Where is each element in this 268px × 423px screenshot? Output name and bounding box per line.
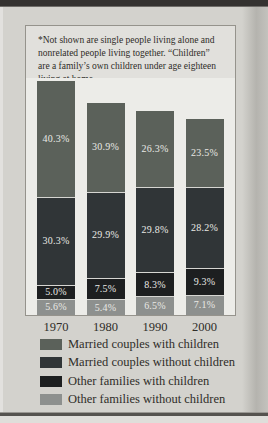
value-label: 5.4% [95,303,117,313]
legend-swatch [40,339,62,350]
value-label: 23.5% [191,148,218,158]
value-label: 30.3% [43,236,70,246]
legend-label: Married couples without children [68,355,235,370]
segment-married-couples-with-children: 40.3% [37,81,75,197]
legend-label: Other families with children [68,374,209,389]
value-label: 7.5% [95,284,117,294]
segment-other-families-without-children: 5.6% [37,299,75,315]
legend-swatch [40,376,62,387]
x-tick-1990: 1990 [136,320,174,335]
value-label: 8.3% [144,280,166,290]
value-label: 28.2% [191,223,218,233]
segment-married-couples-without-children: 29.8% [136,187,174,273]
segment-married-couples-without-children: 29.9% [87,192,125,278]
segment-other-families-without-children: 7.1% [186,295,224,315]
value-label: 29.8% [142,225,169,235]
legend-item: Other families with children [40,372,235,391]
x-tick-1970: 1970 [37,320,75,335]
segment-other-families-without-children: 5.4% [87,299,125,315]
legend-swatch [40,394,62,405]
stacked-bar-2000: 23.5%28.2%9.3%7.1% [186,119,224,315]
value-label: 40.3% [43,134,70,144]
segment-married-couples-with-children: 30.9% [87,103,125,192]
legend-label: Other families without children [68,392,225,407]
segment-married-couples-without-children: 30.3% [37,197,75,284]
plot-area: 40.3%30.3%5.0%5.6%30.9%29.9%7.5%5.4%26.3… [26,78,235,315]
book-page: *Not shown are single people living alon… [0,0,268,423]
value-label: 5.0% [45,287,67,297]
value-label: 29.9% [92,230,119,240]
legend-label: Married couples with children [68,337,219,352]
footnote-line: nonrelated people living together. “Chil… [38,47,230,60]
figure-panel: *Not shown are single people living alon… [25,25,236,316]
segment-other-families-with-children: 9.3% [186,268,224,295]
segment-other-families-with-children: 8.3% [136,272,174,296]
value-label: 26.3% [142,144,169,154]
legend-item: Married couples with children [40,335,235,354]
footnote-line: *Not shown are single people living alon… [38,34,230,47]
segment-married-couples-with-children: 26.3% [136,111,174,187]
chart-legend: Married couples with childrenMarried cou… [40,335,235,409]
page-right-edge-shadow [242,7,268,412]
segment-other-families-with-children: 7.5% [87,278,125,300]
top-rule-divider [0,0,268,7]
stacked-bar-1990: 26.3%29.8%8.3%6.5% [136,111,174,315]
segment-married-couples-without-children: 28.2% [186,187,224,268]
legend-item: Married couples without children [40,354,235,373]
bottom-margin [0,416,268,423]
value-label: 9.3% [194,277,216,287]
value-label: 6.5% [144,301,166,311]
page-left-edge [0,7,3,412]
legend-item: Other families without children [40,391,235,410]
value-label: 30.9% [92,142,119,152]
segment-married-couples-with-children: 23.5% [186,119,224,187]
legend-swatch [40,357,62,368]
segment-other-families-with-children: 5.0% [37,285,75,299]
value-label: 5.6% [45,302,67,312]
footnote-line: are a family’s own children under age ei… [38,60,230,73]
value-label: 7.1% [194,300,216,310]
x-tick-2000: 2000 [186,320,224,335]
x-tick-1980: 1980 [87,320,125,335]
stacked-bar-1970: 40.3%30.3%5.0%5.6% [37,81,75,315]
stacked-bar-1980: 30.9%29.9%7.5%5.4% [87,103,125,315]
segment-other-families-without-children: 6.5% [136,296,174,315]
x-axis-labels: 1970198019902000 [25,320,236,336]
